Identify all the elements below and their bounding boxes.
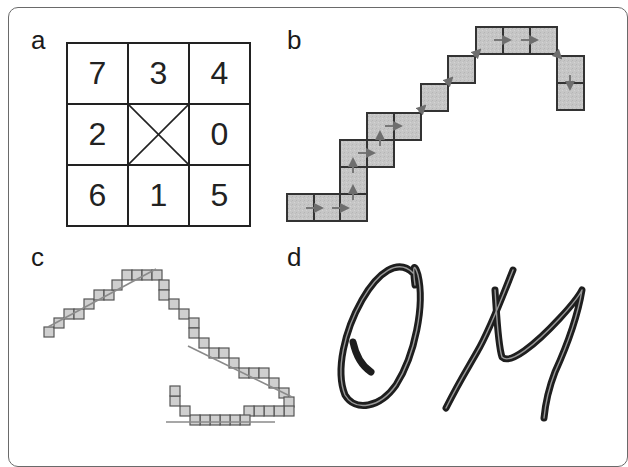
handwriting-om <box>0 0 608 442</box>
